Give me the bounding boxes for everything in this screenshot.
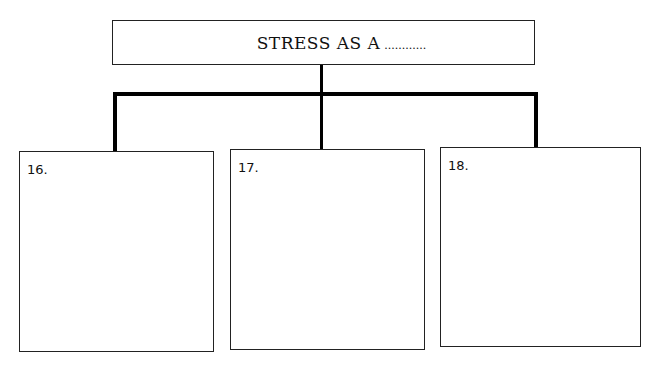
connector-right xyxy=(534,92,538,148)
answer-box-17: 17. xyxy=(230,149,425,350)
connector-middle xyxy=(320,92,323,150)
box-label-16: 16. xyxy=(27,162,48,177)
box-label-18: 18. xyxy=(448,158,469,173)
answer-box-18: 18. xyxy=(440,147,641,347)
answer-box-16: 16. xyxy=(19,151,214,352)
title-box: STRESS AS A............ xyxy=(112,20,535,65)
connector-left xyxy=(113,92,117,152)
connector-trunk xyxy=(320,65,323,95)
title-label: STRESS AS A xyxy=(257,33,381,53)
connector-horizontal xyxy=(113,92,538,96)
title-blank: ............ xyxy=(384,39,426,52)
title-text: STRESS AS A............ xyxy=(221,33,427,53)
box-label-17: 17. xyxy=(238,160,259,175)
